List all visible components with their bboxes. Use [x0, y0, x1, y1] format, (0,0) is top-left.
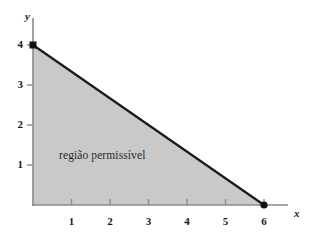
- y-tick-label-3: 3: [9, 79, 23, 90]
- y-axis-ticks: [27, 45, 33, 165]
- y-axis-label: y: [25, 11, 30, 22]
- y-tick-label-2: 2: [9, 119, 23, 130]
- vertex-marker-0-4: [30, 42, 37, 49]
- x-tick-label-3: 3: [142, 216, 156, 227]
- x-tick-label-5: 5: [219, 216, 233, 227]
- x-tick-label-4: 4: [180, 216, 194, 227]
- x-tick-label-6: 6: [257, 216, 271, 227]
- y-tick-label-4: 4: [9, 39, 23, 50]
- y-tick-label-1: 1: [9, 159, 23, 170]
- chart-figure: y x 4 3 2 1 1 2 3 4 5 6 região permissív…: [0, 0, 317, 241]
- x-axis-label: x: [294, 208, 300, 219]
- x-tick-label-1: 1: [65, 216, 79, 227]
- plot-area: [0, 0, 317, 241]
- feasible-region-annotation: região permissível: [59, 150, 145, 162]
- x-tick-label-2: 2: [103, 216, 117, 227]
- vertex-marker-6-0: [260, 201, 267, 208]
